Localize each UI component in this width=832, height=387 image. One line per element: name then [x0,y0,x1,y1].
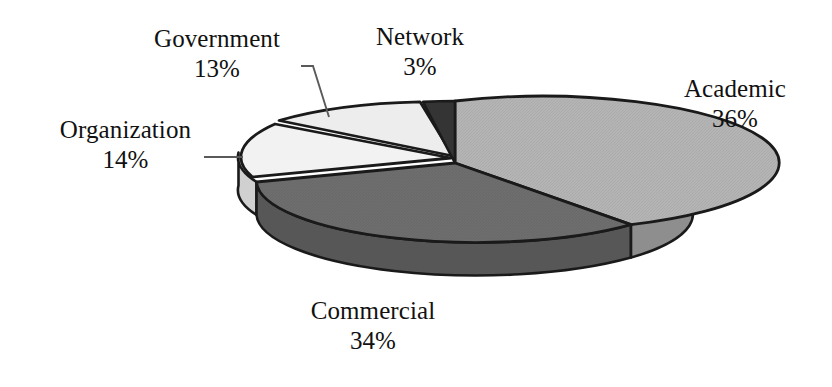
pie-label-government-name: Government [112,24,322,54]
pie-label-commercial: Commercial 34% [248,296,498,355]
pie-label-network-name: Network [330,22,510,52]
pie-label-government-percent: 13% [112,54,322,84]
pie-label-academic-percent: 36% [640,104,830,134]
pie-label-network-percent: 3% [330,52,510,82]
pie-label-academic: Academic 36% [640,74,830,133]
pie-label-government: Government 13% [112,24,322,83]
pie-label-organization: Organization 14% [18,115,233,174]
pie-label-network: Network 3% [330,22,510,81]
pie-label-academic-name: Academic [640,74,830,104]
pie-label-organization-name: Organization [18,115,233,145]
pie-chart: Academic 36% Commercial 34% Organization… [0,0,832,387]
pie-label-commercial-percent: 34% [248,326,498,356]
pie-label-commercial-name: Commercial [248,296,498,326]
pie-label-organization-percent: 14% [18,145,233,175]
